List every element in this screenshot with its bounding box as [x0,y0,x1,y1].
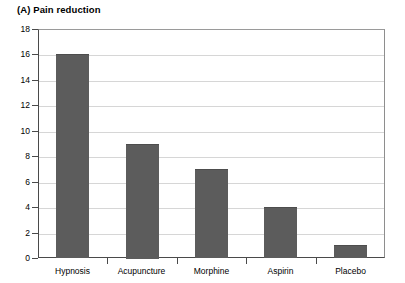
x-tick-mark [107,258,108,264]
gridline [39,55,384,56]
y-tick-label: 14 [4,76,30,85]
gridline [39,157,384,158]
bar-aspirin [264,207,297,258]
y-tick-label: 16 [4,50,30,59]
y-tick-label: 6 [4,178,30,187]
y-tick-label: 2 [4,229,30,238]
bar-acupuncture [126,144,159,259]
bar-placebo [334,245,367,258]
x-tick-label-placebo: Placebo [316,267,385,276]
y-tick-label: 12 [4,101,30,110]
x-tick-label-acupuncture: Acupuncture [107,267,176,276]
x-tick-label-morphine: Morphine [177,267,246,276]
x-tick-mark [246,258,247,264]
bar-hypnosis [56,54,89,258]
x-tick-mark [316,258,317,264]
y-tick-label: 0 [4,254,30,263]
gridline [39,106,384,107]
chart-title: (A) Pain reduction [17,4,101,15]
y-tick-label: 4 [4,203,30,212]
x-tick-mark [177,258,178,264]
gridline [39,132,384,133]
y-tick-label: 8 [4,152,30,161]
y-tick-label: 18 [4,25,30,34]
x-tick-label-aspirin: Aspirin [246,267,315,276]
gridline [39,81,384,82]
y-tick-mark [32,258,38,259]
bar-morphine [195,169,228,258]
x-tick-label-hypnosis: Hypnosis [38,267,107,276]
bar-chart-figure: (A) Pain reduction 181614121086420 Hypno… [0,0,405,283]
y-tick-label: 10 [4,127,30,136]
